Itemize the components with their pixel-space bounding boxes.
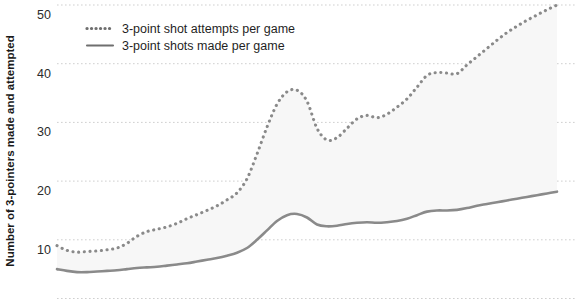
y-tick-label-10: 10 (37, 243, 51, 257)
y-axis-title: Number of 3-pointers made and attempted (4, 35, 16, 266)
y-tick-label-30: 30 (37, 125, 51, 139)
chart-container: 1020304050 Number of 3-pointers made and… (0, 0, 576, 301)
y-tick-label-50: 50 (37, 8, 51, 22)
legend-label-shots-made: 3-point shots made per game (122, 39, 285, 53)
line-chart: 1020304050 Number of 3-pointers made and… (0, 0, 576, 301)
legend-label-shot-attempts: 3-point shot attempts per game (122, 22, 295, 36)
y-tick-label-20: 20 (37, 184, 51, 198)
y-tick-label-40: 40 (37, 67, 51, 81)
